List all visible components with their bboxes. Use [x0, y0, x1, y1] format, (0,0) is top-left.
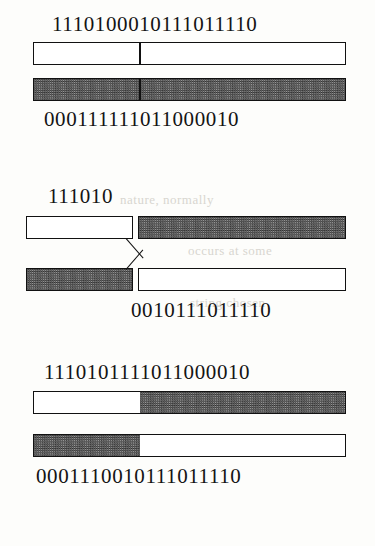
- crossover-exchange-graphic: [0, 216, 375, 296]
- offspring-1-tail-segment: [140, 392, 345, 413]
- crossover-tail-bitstring: 0010111011110: [131, 300, 375, 321]
- shaded-segment: [27, 269, 132, 290]
- offspring-2-head-segment: [34, 435, 140, 456]
- parent-1-tail-segment: [141, 43, 345, 64]
- parent-2-head-bar: [26, 268, 133, 291]
- parent-1-head-segment: [34, 43, 139, 64]
- parent-2-tail-segment: [141, 79, 345, 100]
- parent-1-head-bar: [26, 216, 133, 239]
- crossover-x-stroke-down: [125, 238, 143, 259]
- panel-parents: 1110100010111011110 000111111011000010: [0, 14, 375, 130]
- offspring-2-chromosome-bar: [33, 434, 346, 457]
- parent-1-chromosome-bar: [33, 42, 346, 65]
- crossover-head-bitstring: 111010: [48, 186, 375, 207]
- shaded-segment: [139, 217, 345, 238]
- figure-page: nature, normally occurs at some point of…: [0, 0, 375, 546]
- parent-1-bitstring: 1110100010111011110: [52, 14, 375, 35]
- offspring-2-tail-segment: [140, 435, 345, 456]
- white-segment: [27, 217, 132, 238]
- parent-2-chromosome-bar: [33, 78, 346, 101]
- parent-1-tail-bar: [138, 268, 346, 291]
- parent-2-head-segment: [34, 79, 139, 100]
- panel-crossover: 111010 0010111011110: [0, 186, 375, 321]
- offspring-1-chromosome-bar: [33, 391, 346, 414]
- white-segment: [139, 269, 345, 290]
- offspring-1-head-segment: [34, 392, 140, 413]
- panel-offspring: 1110101111011000010 0001110010111011110: [0, 362, 375, 487]
- offspring-1-bitstring: 1110101111011000010: [44, 362, 375, 383]
- parent-2-bitstring: 000111111011000010: [44, 109, 375, 130]
- offspring-2-bitstring: 0001110010111011110: [36, 466, 375, 487]
- parent-2-tail-bar: [138, 216, 346, 239]
